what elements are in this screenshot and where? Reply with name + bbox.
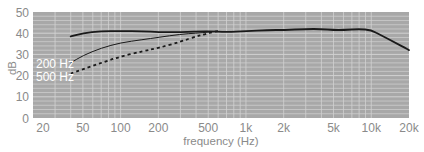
x-tick-label: 500 bbox=[198, 121, 218, 135]
plot-area bbox=[33, 12, 409, 118]
x-tick-label: 50 bbox=[76, 121, 90, 135]
x-tick-label: 10k bbox=[362, 121, 382, 135]
y-tick-label: 0 bbox=[22, 112, 29, 126]
y-tick-label: 30 bbox=[16, 48, 30, 62]
y-tick-label: 10 bbox=[16, 90, 30, 104]
x-tick-label: 2k bbox=[277, 121, 291, 135]
x-tick-label: 200 bbox=[148, 121, 168, 135]
x-tick-label: 1k bbox=[240, 121, 254, 135]
x-tick-label: 20k bbox=[399, 121, 419, 135]
series-label-200hz: 200 Hz bbox=[36, 57, 74, 71]
x-axis-ticks: 20501002005001k2k5k10k20k bbox=[36, 121, 419, 135]
series-labels: 200 Hz 500 Hz bbox=[36, 57, 74, 84]
x-axis-title: frequency (Hz) bbox=[183, 135, 259, 147]
x-tick-label: 20 bbox=[36, 121, 50, 135]
y-tick-label: 40 bbox=[16, 27, 30, 41]
y-tick-label: 50 bbox=[16, 6, 30, 20]
frequency-response-chart: 01020304050 20501002005001k2k5k10k20k dB… bbox=[0, 0, 424, 152]
series-label-500hz: 500 Hz bbox=[36, 70, 74, 84]
x-tick-label: 100 bbox=[111, 121, 131, 135]
y-axis-title: dB bbox=[6, 61, 18, 75]
x-tick-label: 5k bbox=[327, 121, 341, 135]
